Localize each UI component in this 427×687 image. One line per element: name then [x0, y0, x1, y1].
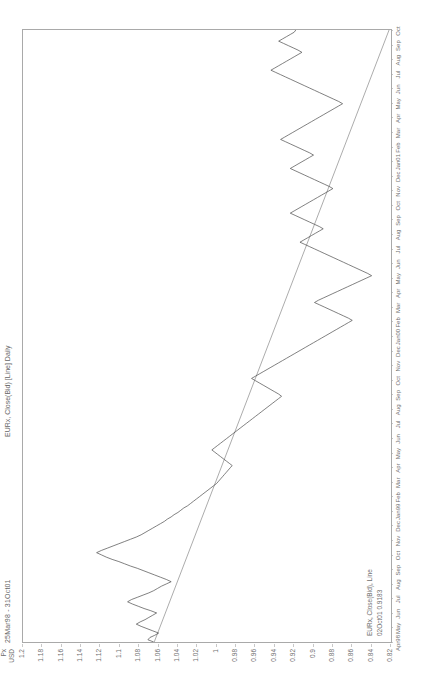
y-axis-tick-mark	[196, 644, 197, 647]
trendline	[154, 30, 389, 642]
y-axis-tick-mark	[371, 644, 372, 647]
y-axis-tick-mark	[216, 644, 217, 647]
y-axis-tick-label: 1	[212, 649, 219, 683]
y-axis-tick-mark	[235, 644, 236, 647]
legend-series-label: EURx, Close(Bid), Line	[365, 569, 375, 636]
y-axis-tick-label: 1.14	[76, 649, 83, 683]
y-axis-unit: USD	[8, 649, 15, 683]
y-axis-tick-label: 1.18	[37, 649, 44, 683]
y-axis-tick-label: 1.16	[57, 649, 64, 683]
y-axis-tick-mark	[61, 644, 62, 647]
price-series-svg	[23, 30, 391, 642]
y-axis-tick-mark	[22, 644, 23, 647]
y-axis-tick-label: 0.9	[309, 649, 316, 683]
y-axis-tick-label: 1.12	[95, 649, 102, 683]
y-axis-tick-mark	[119, 644, 120, 647]
chart-screenshot: 25Mar98 - 31Oct01 EURx, Close(Bid) [Line…	[0, 0, 427, 687]
y-axis-tick-mark	[313, 644, 314, 647]
legend-block: EURx, Close(Bid), Line 02Oct01 0.9183	[365, 569, 385, 636]
y-axis-tick-label: 0.88	[328, 649, 335, 683]
y-axis-tick-label: 0.94	[270, 649, 277, 683]
rotated-chart-canvas: 25Mar98 - 31Oct01 EURx, Close(Bid) [Line…	[0, 0, 427, 687]
chart-title: EURx, Close(Bid) [Line] Daily	[4, 346, 11, 437]
y-axis-tick-mark	[138, 644, 139, 647]
y-axis-tick-label: 1.1	[115, 649, 122, 683]
y-axis-tick-mark	[390, 644, 391, 647]
y-axis-tick-mark	[80, 644, 81, 647]
y-axis-tick-mark	[158, 644, 159, 647]
y-axis-tick-mark	[351, 644, 352, 647]
y-axis-tick-mark	[293, 644, 294, 647]
y-axis-tick-label: 1.04	[173, 649, 180, 683]
y-axis-tick-mark	[99, 644, 100, 647]
y-axis-title: Px	[0, 649, 7, 683]
price-line	[97, 30, 372, 642]
y-axis-tick-label: 1.06	[154, 649, 161, 683]
y-axis-tick-label: 0.84	[367, 649, 374, 683]
y-axis-tick-label: 0.82	[386, 649, 393, 683]
y-axis-tick-label: 1.02	[192, 649, 199, 683]
x-axis-tick-label: Oct	[395, 17, 401, 45]
y-axis-tick-label: 0.96	[250, 649, 257, 683]
y-axis-tick-mark	[41, 644, 42, 647]
y-axis-tick-mark	[332, 644, 333, 647]
plot-frame: EURx, Close(Bid), Line 02Oct01 0.9183	[22, 29, 392, 643]
y-axis-tick-label: 0.92	[289, 649, 296, 683]
y-axis-tick-mark	[274, 644, 275, 647]
y-axis-tick-mark	[177, 644, 178, 647]
y-axis-tick-mark	[254, 644, 255, 647]
y-axis-tick-label: 1.08	[134, 649, 141, 683]
y-axis-tick-label: 0.98	[231, 649, 238, 683]
y-axis-tick-label: 1.2	[18, 649, 25, 683]
y-axis-tick-label: 0.86	[347, 649, 354, 683]
date-range-label: 25Mar98 - 31Oct01	[4, 579, 11, 643]
legend-quote-label: 02Oct01 0.9183	[375, 569, 385, 636]
plot-area[interactable]	[23, 30, 391, 642]
